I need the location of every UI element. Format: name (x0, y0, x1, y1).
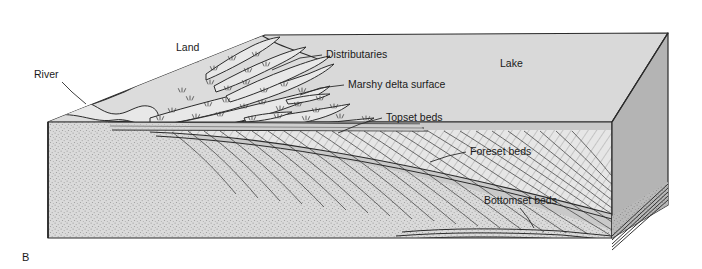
label-topset-beds: Topset beds (386, 111, 443, 123)
label-lake: Lake (500, 57, 523, 69)
delta-block-diagram-figure: River Land Distributaries Marshy delta s… (0, 0, 702, 269)
delta-diagram-canvas: River Land Distributaries Marshy delta s… (0, 0, 702, 269)
label-river: River (34, 68, 59, 80)
panel-label: B (22, 251, 29, 263)
label-bottomset-beds: Bottomset beds (484, 194, 557, 206)
label-marshy-delta-surface: Marshy delta surface (348, 78, 446, 90)
label-land: Land (176, 41, 200, 53)
label-distributaries: Distributaries (326, 48, 387, 60)
label-foreset-beds: Foreset beds (470, 145, 531, 157)
front-cross-section-face (48, 122, 612, 250)
leader-river (62, 82, 86, 104)
